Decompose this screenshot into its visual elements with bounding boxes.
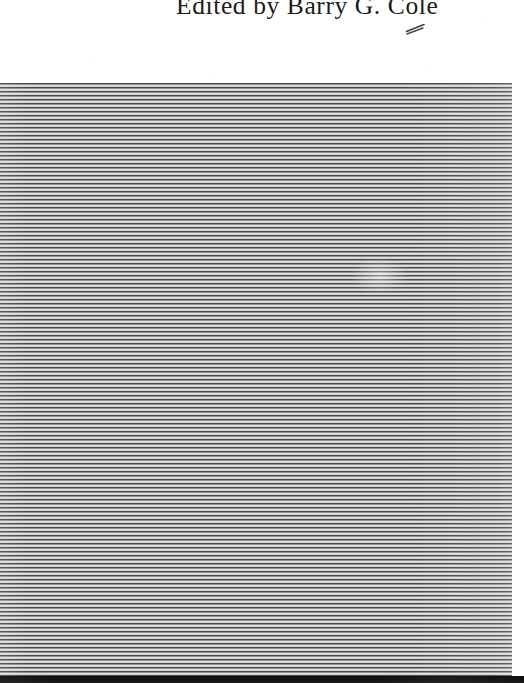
scanned-page: Edited by Barry G. Cole [0,0,524,683]
board-blemish-smudge [352,259,406,293]
bottom-shadow-mottle [0,676,524,683]
right-paper-margin [512,83,524,683]
bottom-edge-shadow [0,676,524,683]
ribbed-board-surface [0,83,512,676]
editor-credit-line: Edited by Barry G. Cole [176,0,516,21]
board-lighting-gradient [0,83,512,676]
